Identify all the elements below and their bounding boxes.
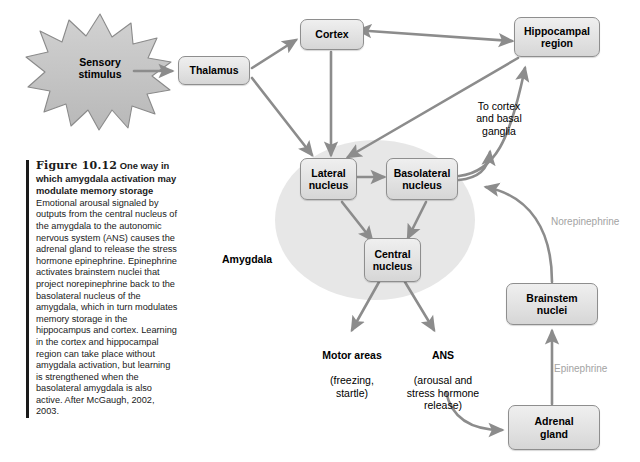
amygdala-region-label: Amygdala bbox=[222, 253, 272, 265]
to-cortex-and-basal-ganglia-label: To cortex and basal ganglia bbox=[453, 100, 545, 137]
arrow-thalamus-to-cortex bbox=[252, 40, 296, 68]
figure-caption: Figure 10.12 One way in which amygdala a… bbox=[26, 160, 178, 418]
epinephrine-label: Epinephrine bbox=[554, 363, 607, 374]
motor-areas-heading: Motor areas bbox=[303, 349, 401, 361]
norepinephrine-label: Norepinephrine bbox=[551, 216, 619, 227]
node-hippocampal-region[interactable]: Hippocampal region bbox=[514, 17, 600, 57]
node-brainstem-nuclei[interactable]: Brainstem nuclei bbox=[506, 283, 598, 325]
node-thalamus[interactable]: Thalamus bbox=[178, 56, 250, 85]
ans-heading: ANS bbox=[390, 349, 496, 361]
node-lateral-nucleus[interactable]: Lateral nucleus bbox=[300, 158, 357, 200]
figure-canvas: Figure 10.12 One way in which amygdala a… bbox=[0, 0, 640, 462]
node-adrenal-gland[interactable]: Adrenal gland bbox=[508, 405, 600, 450]
node-cortex[interactable]: Cortex bbox=[300, 19, 364, 50]
ans-sublabel: (arousal and stress hormone release) bbox=[390, 374, 496, 411]
motor-areas-sublabel: (freezing, startle) bbox=[303, 374, 401, 399]
sensory-stimulus-label: Sensory stimulus bbox=[58, 56, 142, 81]
arrow-thalamus-to-lateral-nucleus bbox=[252, 78, 312, 155]
arrow-brainstem-to-basolateral-norepinephrine bbox=[486, 187, 552, 282]
motor-areas-label: Motor areas (freezing, startle) bbox=[303, 337, 401, 411]
node-central-nucleus[interactable]: Central nucleus bbox=[364, 238, 421, 282]
arrow-cortex-hippocampal-bidirectional bbox=[369, 31, 512, 41]
node-basolateral-nucleus[interactable]: Basolateral nucleus bbox=[386, 158, 458, 200]
figure-body: Emotional arousal signaled by outputs fr… bbox=[36, 198, 177, 417]
ans-label: ANS (arousal and stress hormone release) bbox=[390, 337, 496, 424]
figure-number: Figure 10.12 bbox=[36, 159, 117, 172]
